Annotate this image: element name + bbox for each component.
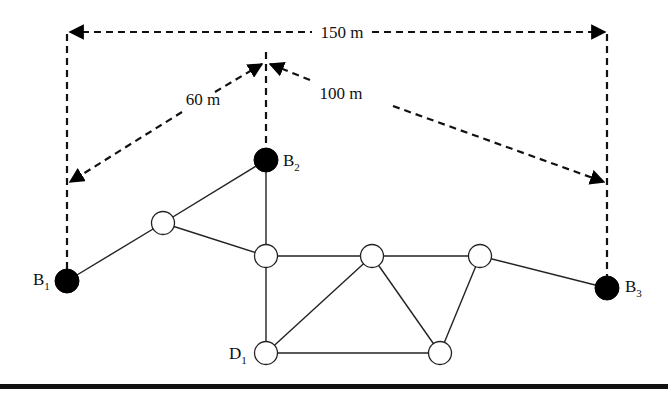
node-n1	[152, 212, 175, 235]
node-n3	[361, 245, 384, 268]
width-label: 150 m	[321, 23, 364, 42]
network-diagram: 150 m 60 m 100 m B1 B2 B3 D1	[0, 0, 668, 395]
label-b2: B2	[283, 151, 300, 173]
right-diagonal-label: 100 m	[320, 84, 363, 103]
left-diagonal-bottom	[70, 112, 182, 182]
left-diagonal-label: 60 m	[186, 90, 220, 109]
node-n4	[469, 245, 492, 268]
node-n5	[429, 342, 452, 365]
node-b3	[595, 276, 619, 300]
node-b2	[254, 148, 278, 172]
node-d1	[255, 342, 278, 365]
right-diagonal-top	[270, 64, 310, 80]
label-d1: D1	[229, 344, 247, 366]
node-n2	[255, 245, 278, 268]
label-b1: B1	[33, 270, 50, 292]
left-diagonal-top	[215, 64, 262, 92]
dimension-lines	[67, 32, 607, 276]
network-edges	[67, 160, 607, 353]
bottom-rule	[0, 384, 668, 389]
label-b3: B3	[625, 277, 642, 299]
right-diagonal-bottom	[393, 106, 604, 182]
node-b1	[55, 269, 79, 293]
